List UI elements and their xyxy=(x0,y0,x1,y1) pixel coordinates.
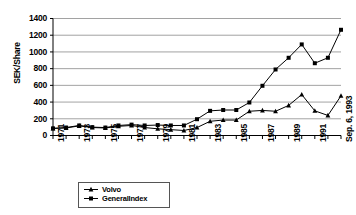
x-tick-label: 1989 xyxy=(292,123,302,141)
y-tick-label: 0 xyxy=(17,131,47,139)
data-point-marker-square xyxy=(103,126,107,130)
data-point-marker-square xyxy=(208,109,212,113)
x-tick-label: 1981 xyxy=(187,123,197,141)
x-tick-label: Sep. 6, 1993 xyxy=(344,95,354,141)
legend-item-volvo[interactable]: Volvo xyxy=(83,185,163,194)
data-point-marker-square xyxy=(182,123,186,127)
chart-legend: VolvoGeneralIndex xyxy=(78,182,170,208)
data-point-marker-square xyxy=(339,28,343,32)
data-point-marker-square xyxy=(221,108,225,112)
stock-price-line-chart: SEK/Share 1400120010008006004002000 1971… xyxy=(0,0,356,215)
data-point-marker-square xyxy=(195,117,199,121)
x-tick-label: 1975 xyxy=(109,123,119,141)
data-point-marker-triangle xyxy=(339,93,344,98)
x-tick-label: 1977 xyxy=(135,123,145,141)
data-point-marker-square xyxy=(300,42,304,46)
legend-label: GeneralIndex xyxy=(102,194,147,203)
y-tick-label: 1200 xyxy=(17,31,47,39)
plot-area xyxy=(0,0,356,215)
x-tick-label: 1973 xyxy=(82,123,92,141)
y-tick-label: 1400 xyxy=(17,14,47,22)
y-tick-label: 800 xyxy=(17,64,47,72)
x-tick-label: 1985 xyxy=(239,123,249,141)
data-point-marker-square xyxy=(156,123,160,127)
data-point-marker-square xyxy=(77,123,81,127)
data-point-marker-square xyxy=(313,61,317,65)
y-tick-label: 1000 xyxy=(17,48,47,56)
x-tick-label: 1987 xyxy=(266,123,276,141)
x-tick-label: 1979 xyxy=(161,123,171,141)
x-tick-label: 1971 xyxy=(56,123,66,141)
y-tick-label: 400 xyxy=(17,98,47,106)
data-point-marker-square xyxy=(274,67,278,71)
x-tick-label: 1991 xyxy=(318,123,328,141)
data-point-marker-square xyxy=(247,100,251,104)
x-tick-label: 1983 xyxy=(213,123,223,141)
data-point-marker-square xyxy=(130,123,134,127)
series-line-generalindex xyxy=(53,30,341,129)
data-point-marker-square xyxy=(234,108,238,112)
y-tick-label: 600 xyxy=(17,81,47,89)
legend-marker-square-icon xyxy=(83,194,99,203)
legend-label: Volvo xyxy=(102,185,121,194)
data-point-marker-triangle xyxy=(299,92,304,97)
legend-item-generalindex[interactable]: GeneralIndex xyxy=(83,194,163,203)
legend-marker-triangle-icon xyxy=(83,185,99,194)
y-tick-label: 200 xyxy=(17,115,47,123)
data-point-marker-square xyxy=(326,56,330,60)
data-point-marker-square xyxy=(287,56,291,60)
data-point-marker-square xyxy=(260,84,264,88)
data-point-marker-square xyxy=(51,126,55,130)
